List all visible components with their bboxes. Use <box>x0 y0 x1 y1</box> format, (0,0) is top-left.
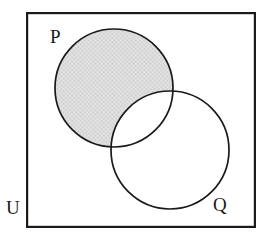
venn-diagram-figure: U P Q <box>0 0 268 239</box>
venn-diagram-canvas <box>0 0 268 239</box>
label-set-q: Q <box>213 195 227 214</box>
label-universal-set: U <box>6 198 20 217</box>
label-set-p: P <box>50 27 61 46</box>
shaded-region-p-only <box>0 0 268 239</box>
